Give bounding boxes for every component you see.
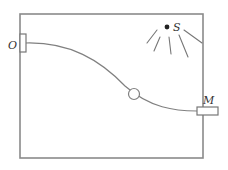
light-rays [147, 30, 202, 57]
ring [129, 89, 140, 100]
ray-4 [179, 35, 188, 57]
frame [20, 14, 203, 158]
left-block-o [20, 34, 26, 52]
label-m: M [202, 94, 215, 107]
label-s: S [173, 21, 181, 34]
ray-2 [154, 37, 160, 51]
label-o: O [8, 39, 17, 52]
ray-5 [184, 30, 202, 43]
right-block-m [197, 107, 218, 115]
light-source-dot [165, 25, 170, 30]
ray-3 [169, 37, 171, 54]
diagram-canvas: O M S [0, 0, 228, 170]
ray-1 [147, 30, 157, 43]
